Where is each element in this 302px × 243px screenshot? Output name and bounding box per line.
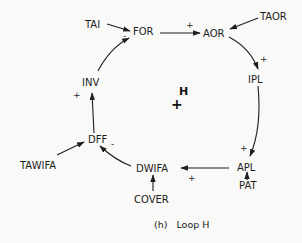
causal-loop-diagram: - + + + + - + TAI FOR AOR TAOR IPL APL P… bbox=[0, 0, 302, 243]
edge-tai-for bbox=[107, 24, 130, 31]
edge-ipl-apl bbox=[250, 86, 259, 156]
edge-taor-aor bbox=[230, 18, 258, 29]
node-for: FOR bbox=[133, 26, 154, 37]
node-ipl: IPL bbox=[248, 74, 263, 85]
sign-aor-ipl: + bbox=[260, 54, 268, 64]
edge-aor-ipl bbox=[229, 37, 258, 69]
node-tai: TAI bbox=[84, 19, 100, 30]
sign-tai-for: - bbox=[123, 31, 126, 41]
node-dff: DFF bbox=[88, 134, 107, 145]
sign-apl-dwifa: + bbox=[188, 173, 196, 183]
node-inv: INV bbox=[82, 77, 99, 88]
node-apl: APL bbox=[237, 162, 256, 173]
node-taor: TAOR bbox=[259, 11, 287, 22]
edge-tawifa-dff bbox=[57, 142, 84, 155]
sign-ipl-apl: + bbox=[240, 143, 248, 153]
edge-dff-inv bbox=[92, 93, 94, 133]
node-aor: AOR bbox=[203, 28, 225, 39]
sign-for-aor: + bbox=[186, 20, 194, 30]
node-dwifa: DWIFA bbox=[136, 163, 168, 174]
edge-inv-for bbox=[98, 38, 129, 71]
node-pat: PAT bbox=[239, 180, 257, 191]
sign-dff-inv: + bbox=[73, 90, 81, 100]
figure-caption: (h) Loop H bbox=[154, 219, 209, 230]
diagram-svg: - + + + + - + TAI FOR AOR TAOR IPL APL P… bbox=[0, 0, 302, 243]
node-tawifa: TAWIFA bbox=[19, 160, 56, 171]
edge-dwifa-dff bbox=[100, 146, 131, 166]
sign-dwifa-dff: - bbox=[111, 139, 114, 149]
loop-polarity: + bbox=[171, 96, 183, 112]
node-cover: COVER bbox=[134, 194, 169, 205]
